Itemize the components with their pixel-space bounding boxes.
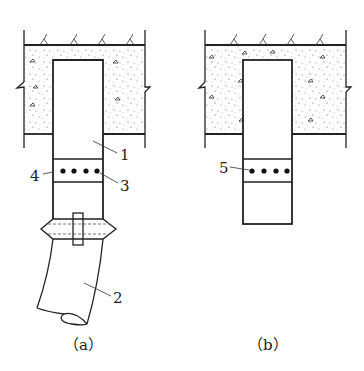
label-1: 1 bbox=[120, 146, 130, 164]
label-3: 3 bbox=[120, 177, 130, 195]
technical-diagram: 1 4 3 2 （a） bbox=[0, 0, 364, 371]
ground-marks-b bbox=[230, 34, 324, 45]
pile-column-b bbox=[243, 60, 292, 224]
panel-a: 1 4 3 2 （a） bbox=[17, 30, 150, 354]
caption-a: （a） bbox=[64, 336, 103, 354]
leader-5 bbox=[230, 167, 249, 170]
concrete-slab-b bbox=[199, 30, 351, 148]
bolt-row-a bbox=[60, 168, 99, 173]
ground-marks-a bbox=[40, 34, 134, 45]
bolt-row-b bbox=[249, 168, 289, 173]
label-5: 5 bbox=[219, 159, 229, 177]
panel-b: 5 （b） bbox=[199, 30, 351, 354]
pile-column-a bbox=[53, 60, 103, 219]
caption-b: （b） bbox=[248, 336, 288, 354]
curved-pipe bbox=[37, 239, 103, 325]
label-4: 4 bbox=[30, 167, 40, 185]
label-2: 2 bbox=[113, 289, 123, 307]
concrete-slab-a bbox=[17, 30, 150, 148]
